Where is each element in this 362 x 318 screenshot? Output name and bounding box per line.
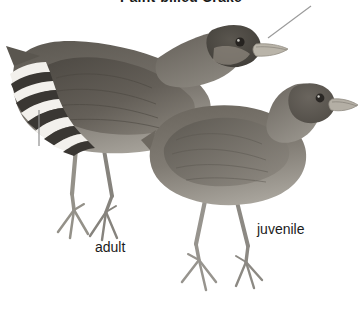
adult-eye-highlight <box>237 39 240 42</box>
adult-eye <box>235 37 244 46</box>
juvenile-far-leg <box>236 198 262 288</box>
juvenile-near-leg <box>182 196 216 290</box>
caption-adult: adult <box>95 239 125 255</box>
bill-leader-line <box>268 6 311 38</box>
caption-juvenile: juvenile <box>257 221 304 237</box>
adult-bill <box>253 44 288 56</box>
juvenile-eye <box>316 94 325 103</box>
adult-far-leg <box>90 150 117 240</box>
bird-illustration-plate: Paint-billed Crake <box>0 0 362 318</box>
adult-near-leg <box>58 148 88 238</box>
juvenile-head <box>288 83 334 123</box>
juvenile-eye-highlight <box>317 95 319 97</box>
illustration-artwork <box>0 0 362 318</box>
